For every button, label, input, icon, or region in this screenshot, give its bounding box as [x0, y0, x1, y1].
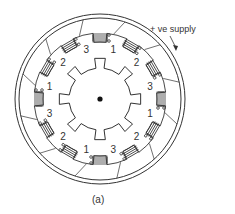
phase-label: 2	[134, 57, 140, 68]
winding-turn	[149, 123, 157, 137]
lead-line	[40, 148, 56, 153]
coil-terminal	[108, 34, 111, 37]
winding-turn	[41, 124, 49, 138]
lead-line	[163, 78, 179, 82]
winding-turn	[63, 148, 77, 156]
coil-terminal	[163, 107, 166, 110]
lead-line	[79, 20, 83, 36]
arrow-head-icon	[173, 45, 178, 51]
winding-turn	[63, 42, 77, 50]
coil	[121, 38, 141, 55]
coil	[58, 143, 78, 160]
winding-turn	[43, 62, 51, 76]
phase-label: 1	[84, 144, 90, 155]
coil	[157, 91, 166, 109]
coil	[144, 120, 161, 140]
lead-line	[149, 144, 154, 160]
winding-turn	[125, 150, 139, 158]
phase-label: 3	[111, 144, 117, 155]
lead-line	[46, 39, 51, 55]
winding-turn	[62, 40, 76, 48]
coil-terminal	[90, 162, 93, 165]
coil-terminal	[41, 89, 44, 92]
coil	[39, 57, 56, 77]
coil	[145, 59, 162, 79]
winding-turn	[124, 148, 138, 156]
winding-turn	[151, 61, 159, 75]
phase-label: 3	[47, 108, 53, 119]
winding-turn	[41, 61, 49, 75]
lead-line	[75, 164, 86, 176]
winding-turn	[62, 150, 76, 158]
coil-terminal	[35, 89, 38, 92]
phase-label: 1	[147, 108, 153, 119]
phase-label: 1	[47, 81, 53, 92]
phase-label: 3	[84, 44, 90, 55]
coil	[60, 37, 80, 54]
winding-turn	[125, 40, 139, 48]
lead-line	[21, 116, 37, 120]
winding-turn	[149, 62, 157, 76]
coil-terminal	[157, 107, 160, 110]
winding-turn	[151, 124, 159, 138]
coil	[35, 89, 44, 107]
coil	[92, 34, 110, 43]
lead-line	[114, 22, 125, 34]
phase-label: 2	[60, 57, 66, 68]
stepper-motor-diagram: 123123123123 + ve supply (a)	[0, 0, 235, 214]
phase-label: 2	[60, 131, 66, 142]
coil	[119, 144, 139, 161]
lead-line	[145, 45, 161, 50]
lead-line	[23, 74, 35, 85]
coil-terminal	[90, 156, 93, 159]
winding-turn	[124, 42, 138, 50]
phase-label: 2	[134, 131, 140, 142]
supply-label: + ve supply	[150, 24, 196, 34]
coil-terminal	[108, 40, 111, 43]
figure-caption: (a)	[92, 194, 104, 205]
lead-line	[165, 113, 177, 124]
lead-line	[117, 162, 121, 178]
coil	[38, 118, 55, 138]
winding-turn	[43, 123, 51, 137]
phase-label: 3	[147, 81, 153, 92]
coil	[90, 156, 108, 165]
phase-label: 1	[111, 44, 117, 55]
shaft-dot	[97, 96, 102, 101]
